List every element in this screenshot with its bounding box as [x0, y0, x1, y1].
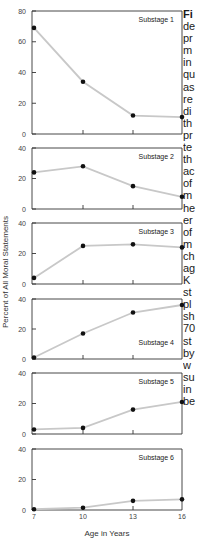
- data-point-marker: [32, 355, 37, 360]
- figure-caption-truncated: Fideprminquasredithprtethacofmheerofmcha…: [183, 8, 199, 407]
- data-point-marker: [131, 113, 136, 118]
- panel-title: Substage 6: [139, 454, 175, 462]
- substage-line-charts: 020406080Substage 102040Substage 202040S…: [0, 0, 199, 539]
- x-tick-label: 16: [178, 513, 186, 520]
- caption-line: te: [183, 141, 199, 153]
- caption-line: Fi: [183, 8, 199, 20]
- y-tick-label: 0: [22, 131, 26, 138]
- x-axis-title: Age in Years: [85, 529, 130, 538]
- x-tick-label: 7: [32, 513, 36, 520]
- panel-substage-2: 02040Substage 2: [18, 145, 184, 213]
- caption-line: qu: [183, 68, 199, 80]
- y-tick-label: 0: [22, 431, 26, 438]
- series-line: [34, 166, 182, 197]
- caption-line: m: [183, 44, 199, 56]
- panel-substage-1: 020406080Substage 1: [18, 8, 184, 138]
- caption-line: th: [183, 117, 199, 129]
- y-axis-title: Percent of All Moral Statements: [1, 216, 10, 328]
- y-tick-label: 20: [18, 175, 26, 182]
- series-line: [34, 244, 182, 278]
- y-tick-label: 0: [22, 356, 26, 363]
- caption-line: de: [183, 20, 199, 32]
- y-tick-label: 60: [18, 38, 26, 45]
- data-point-marker: [131, 407, 136, 412]
- data-point-marker: [32, 427, 37, 432]
- panel-title: Substage 2: [139, 153, 175, 161]
- data-point-marker: [32, 276, 37, 281]
- x-tick-label: 10: [79, 513, 87, 520]
- series-line: [34, 305, 182, 358]
- series-line: [34, 28, 182, 117]
- data-point-marker: [131, 310, 136, 315]
- y-tick-label: 40: [18, 446, 26, 453]
- caption-line: st: [183, 335, 199, 347]
- data-point-marker: [81, 505, 86, 510]
- y-tick-label: 20: [18, 100, 26, 107]
- y-tick-label: 40: [18, 220, 26, 227]
- y-tick-label: 20: [18, 476, 26, 483]
- data-point-marker: [81, 164, 86, 169]
- caption-line: st: [183, 286, 199, 298]
- panel-title: Substage 3: [139, 228, 175, 236]
- caption-line: ac: [183, 165, 199, 177]
- y-tick-label: 80: [18, 8, 26, 15]
- caption-line: ag: [183, 262, 199, 274]
- caption-line: by: [183, 347, 199, 359]
- x-tick-label: 13: [129, 513, 137, 520]
- series-line: [34, 499, 182, 509]
- data-point-marker: [32, 507, 37, 512]
- y-tick-label: 40: [18, 69, 26, 76]
- data-point-marker: [81, 244, 86, 249]
- caption-line: sh: [183, 310, 199, 322]
- series-line: [34, 402, 182, 429]
- caption-line: su: [183, 371, 199, 383]
- y-tick-label: 20: [18, 400, 26, 407]
- y-tick-label: 40: [18, 145, 26, 152]
- y-tick-label: 20: [18, 250, 26, 257]
- panel-substage-4: 02040Substage 4: [18, 296, 184, 363]
- caption-line: he: [183, 202, 199, 214]
- data-point-marker: [81, 331, 86, 336]
- caption-line: m: [183, 238, 199, 250]
- data-point-marker: [32, 170, 37, 175]
- caption-line: be: [183, 395, 199, 407]
- data-point-marker: [32, 26, 37, 31]
- y-tick-label: 0: [22, 206, 26, 213]
- caption-line: as: [183, 81, 199, 93]
- data-point-marker: [180, 497, 185, 502]
- panel-substage-3: 02040Substage 3: [18, 220, 184, 288]
- caption-line: ch: [183, 250, 199, 262]
- caption-line: er: [183, 214, 199, 226]
- caption-line: pl: [183, 298, 199, 310]
- caption-line: di: [183, 105, 199, 117]
- caption-line: of: [183, 177, 199, 189]
- caption-line: 70: [183, 322, 199, 334]
- panel-title: Substage 5: [139, 378, 175, 386]
- caption-line: of: [183, 226, 199, 238]
- caption-line: w: [183, 359, 199, 371]
- panel-substage-5: 02040Substage 5: [18, 370, 184, 438]
- caption-line: K: [183, 274, 199, 286]
- y-tick-label: 0: [22, 281, 26, 288]
- panel-title: Substage 1: [139, 16, 175, 24]
- data-point-marker: [81, 426, 86, 431]
- panel-title: Substage 4: [139, 339, 175, 347]
- caption-line: th: [183, 153, 199, 165]
- y-tick-label: 0: [22, 507, 26, 514]
- caption-line: in: [183, 383, 199, 395]
- data-point-marker: [81, 79, 86, 84]
- data-point-marker: [131, 184, 136, 189]
- panel-substage-6: 02040Substage 6: [18, 446, 184, 514]
- caption-line: pr: [183, 32, 199, 44]
- data-point-marker: [131, 499, 136, 504]
- data-point-marker: [131, 242, 136, 247]
- caption-line: in: [183, 56, 199, 68]
- caption-line: pr: [183, 129, 199, 141]
- caption-line: m: [183, 189, 199, 201]
- y-tick-label: 40: [18, 296, 26, 303]
- caption-line: re: [183, 93, 199, 105]
- y-tick-label: 20: [18, 326, 26, 333]
- y-tick-label: 40: [18, 370, 26, 377]
